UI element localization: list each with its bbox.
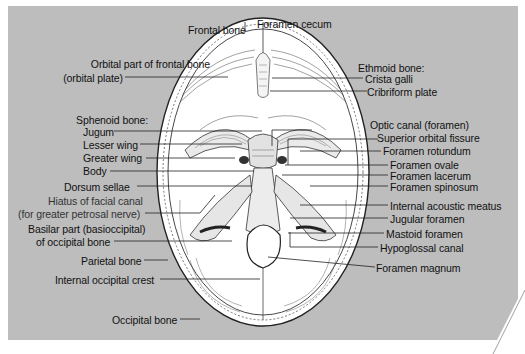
label-lesser-wing: Lesser wing <box>83 139 138 151</box>
label-hypoglossal-canal: Hypoglossal canal <box>380 242 464 254</box>
label-crista-galli: Crista galli <box>365 73 413 85</box>
label-hiatus-facial-canal: Hiatus of facial canal <box>48 195 143 207</box>
label-body: Body <box>83 165 107 177</box>
label-hiatus-sub: (for greater petrosal nerve) <box>18 208 140 220</box>
label-greater-wing: Greater wing <box>83 152 142 164</box>
label-mastoid-foramen: Mastoid foramen <box>386 228 463 240</box>
label-superior-orbital-fissure: Superior orbital fissure <box>377 132 480 144</box>
label-orbital-plate: (orbital plate) <box>20 72 123 84</box>
label-sphenoid-heading: Sphenoid bone: <box>76 114 148 126</box>
label-dorsum-sellae: Dorsum sellae <box>64 181 130 193</box>
label-foramen-rotundum: Foramen rotundum <box>383 145 471 157</box>
label-occipital-bone: Occipital bone <box>112 314 177 326</box>
label-foramen-spinosum: Foramen spinosum <box>390 181 478 193</box>
label-jugular-foramen: Jugular foramen <box>390 213 464 225</box>
label-jugum: Jugum <box>83 126 114 138</box>
label-optic-canal: Optic canal (foramen) <box>370 119 469 131</box>
label-cribriform-plate: Cribriform plate <box>367 86 437 98</box>
label-orbital-part: Orbital part of frontal bone <box>20 58 210 70</box>
label-foramen-magnum: Foramen magnum <box>376 262 460 274</box>
label-internal-acoustic-meatus: Internal acoustic meatus <box>390 200 501 212</box>
label-parietal-bone: Parietal bone <box>81 255 142 267</box>
label-foramen-cecum: Foramen cecum <box>257 18 332 30</box>
label-internal-occipital-crest: Internal occipital crest <box>55 274 154 286</box>
label-basilar-part: Basilar part (basioccipital) <box>28 223 145 235</box>
label-frontal-bone: Frontal bone <box>188 24 246 36</box>
label-basilar-sub: of occipital bone <box>36 236 110 248</box>
